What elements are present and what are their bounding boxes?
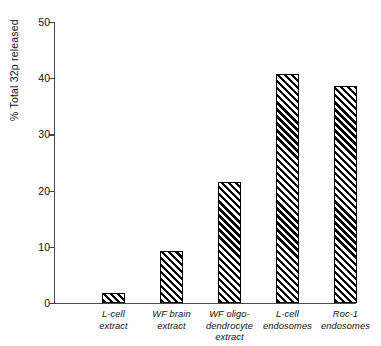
y-tick-label: 30 (38, 128, 50, 140)
x-axis-line (54, 303, 356, 304)
y-tick-label: 50 (38, 16, 50, 28)
x-label-line: extract (194, 332, 265, 344)
bar-wf-brain-extract (160, 251, 183, 303)
x-label-line: Roc-1 (310, 309, 381, 321)
x-label-line: endosomes (310, 321, 381, 333)
bar-chart-figure: % Total 32p released 0 10 20 30 40 50 (0, 0, 381, 346)
y-tick-label: 40 (38, 72, 50, 84)
y-tick-label: 10 (38, 241, 50, 253)
y-axis-label: % Total 32p released (8, 0, 20, 121)
bar-l-cell-endosomes (276, 74, 299, 303)
bar-l-cell-extract (102, 293, 125, 303)
y-tick-label: 20 (38, 185, 50, 197)
y-tick-label: 0 (44, 297, 50, 309)
bar-roc-1-endosomes (334, 86, 357, 303)
x-tick-label-roc-1-endosomes: Roc-1 endosomes (310, 309, 381, 332)
bar-wf-oligodendrocyte-extract (218, 182, 241, 303)
plot-area: 0 10 20 30 40 50 L-cell ex (54, 22, 356, 304)
y-axis-line (54, 22, 55, 304)
